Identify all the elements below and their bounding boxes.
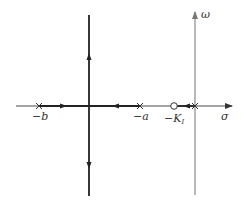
zero-minus-ki: [171, 103, 178, 110]
label-minus-b: −b: [32, 110, 48, 123]
label-minus-ki-sub: I: [180, 118, 184, 126]
root-locus-diagram: −b −a −KI σ ω: [0, 0, 244, 207]
arrow-down-icon: [87, 162, 92, 169]
label-minus-a: −a: [133, 110, 149, 123]
arrow-left-icon: [112, 104, 119, 109]
arrow-left-icon: [183, 104, 190, 109]
label-minus-ki-main: −K: [164, 112, 182, 125]
arrow-right-icon: [60, 104, 67, 109]
imag-axis-label: ω: [201, 8, 210, 21]
real-axis-label: σ: [221, 110, 229, 123]
arrow-up-icon: [87, 53, 92, 60]
label-minus-ki: −KI: [164, 112, 184, 126]
